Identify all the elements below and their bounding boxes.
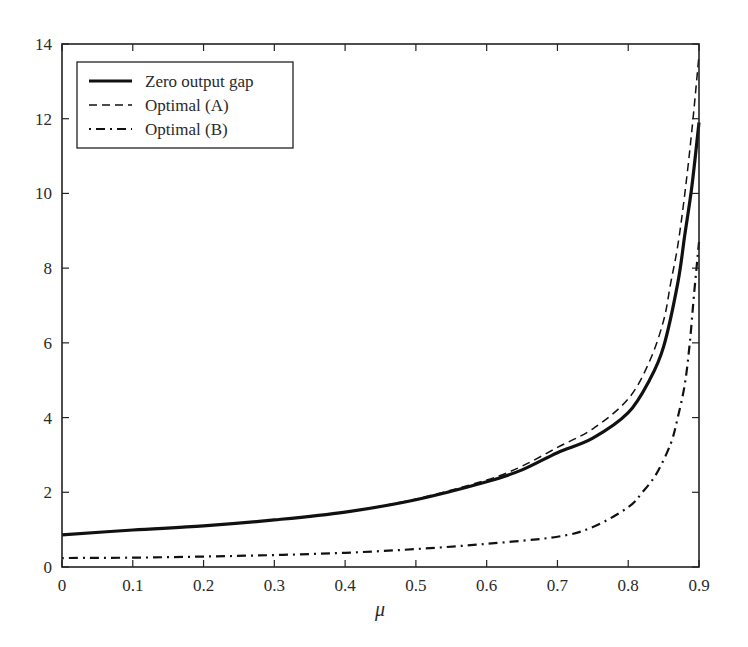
y-tick-label: 4 [44, 409, 53, 428]
legend-label-optimal-b: Optimal (B) [145, 120, 228, 139]
legend: Zero output gap Optimal (A) Optimal (B) [77, 62, 293, 148]
y-tick-label: 14 [35, 35, 53, 54]
x-tick-label: 0.1 [122, 576, 143, 595]
x-tick-label: 0.6 [476, 576, 497, 595]
line-chart: 00.10.20.30.40.50.60.70.80.902468101214 … [0, 0, 748, 647]
series-line-optimal-b [62, 242, 699, 558]
x-tick-label: 0.8 [618, 576, 639, 595]
x-tick-label: 0.4 [334, 576, 356, 595]
x-tick-label: 0 [58, 576, 67, 595]
x-tick-label: 0.3 [264, 576, 285, 595]
x-tick-label: 0.7 [547, 576, 569, 595]
x-tick-label: 0.2 [193, 576, 214, 595]
legend-label-zero-output-gap: Zero output gap [145, 72, 254, 91]
legend-label-optimal-a: Optimal (A) [145, 96, 229, 115]
y-tick-label: 12 [35, 110, 52, 129]
y-tick-label: 6 [44, 334, 53, 353]
series-line-zero-output-gap [62, 122, 699, 534]
x-tick-label: 0.9 [688, 576, 709, 595]
y-tick-label: 10 [35, 184, 52, 203]
y-tick-label: 2 [44, 483, 53, 502]
y-tick-label: 0 [44, 558, 53, 577]
x-tick-label: 0.5 [405, 576, 426, 595]
x-axis-label: μ [374, 598, 385, 621]
y-tick-label: 8 [44, 259, 53, 278]
